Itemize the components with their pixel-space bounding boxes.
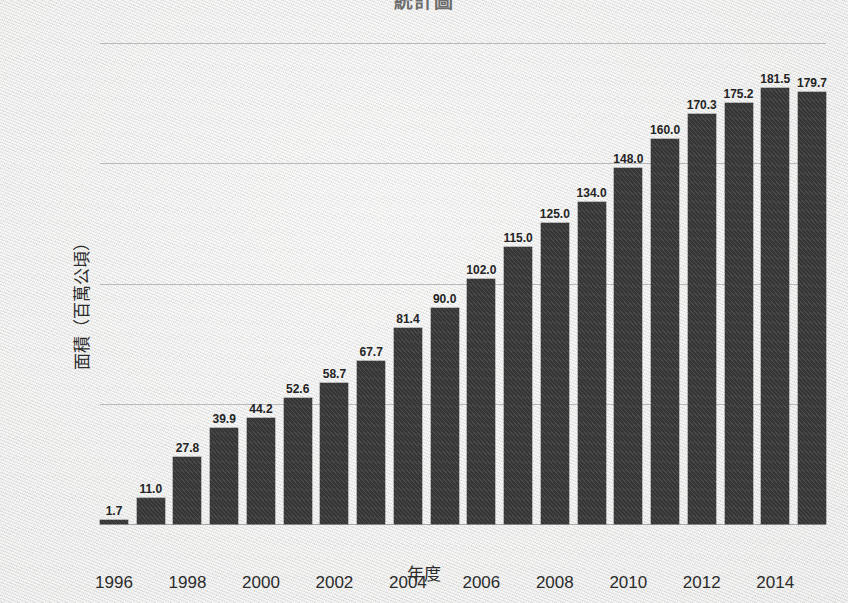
gridline-150 <box>100 163 826 164</box>
chart-figure: 統計圖 面積（百萬公頃） 年度 050100150200 1.711.027.8… <box>0 0 848 603</box>
bar-value-label: 102.0 <box>466 264 496 276</box>
x-axis-tick-label: 2002 <box>315 573 353 593</box>
bar-value-label: 11.0 <box>139 483 162 495</box>
bar[interactable] <box>247 418 275 524</box>
gridline-100 <box>100 284 826 285</box>
bar[interactable] <box>100 520 128 524</box>
bar-slot[interactable]: 67.7 <box>357 43 385 524</box>
gridline-0 <box>100 524 826 525</box>
bar-slot[interactable]: 179.7 <box>798 43 826 524</box>
bar-slot[interactable]: 181.5 <box>761 43 789 524</box>
bar[interactable] <box>320 383 348 524</box>
bar-value-label: 134.0 <box>577 187 607 199</box>
x-axis-tick-label: 2004 <box>389 573 427 593</box>
bar-slot[interactable]: 90.0 <box>431 43 459 524</box>
bar-slot[interactable]: 134.0 <box>578 43 606 524</box>
bar-value-label: 90.0 <box>433 293 456 305</box>
x-axis-tick-label: 2000 <box>242 573 280 593</box>
bar[interactable] <box>394 328 422 524</box>
bar-slot[interactable]: 170.3 <box>688 43 716 524</box>
x-axis-tick-label: 1998 <box>169 573 207 593</box>
x-axis-tick-label: 2008 <box>536 573 574 593</box>
bar-value-label: 39.9 <box>213 413 236 425</box>
bar-slot[interactable]: 27.8 <box>173 43 201 524</box>
bar-value-label: 58.7 <box>323 368 346 380</box>
bar[interactable] <box>688 114 716 524</box>
x-axis-tick-label: 2010 <box>609 573 647 593</box>
bar[interactable] <box>357 361 385 524</box>
bar-value-label: 125.0 <box>540 208 570 220</box>
bar-slot[interactable]: 115.0 <box>504 43 532 524</box>
bar-slot[interactable]: 39.9 <box>210 43 238 524</box>
bar-slot[interactable]: 11.0 <box>137 43 165 524</box>
x-axis-tick-label: 2014 <box>756 573 794 593</box>
plot-area: 050100150200 1.711.027.839.944.252.658.7… <box>100 43 826 524</box>
bar-value-label: 181.5 <box>760 73 790 85</box>
bar-value-label: 115.0 <box>503 232 532 244</box>
bar-slot[interactable]: 125.0 <box>541 43 569 524</box>
bar[interactable] <box>578 202 606 524</box>
bar-value-label: 160.0 <box>650 124 680 136</box>
bar-value-label: 67.7 <box>359 346 382 358</box>
bar-value-label: 52.6 <box>286 383 309 395</box>
bar-slot[interactable]: 102.0 <box>467 43 495 524</box>
x-axis-tick-label: 2012 <box>683 573 721 593</box>
bar-slot[interactable]: 148.0 <box>614 43 642 524</box>
bar[interactable] <box>651 139 679 524</box>
bar-value-label: 44.2 <box>249 403 272 415</box>
bar[interactable] <box>173 457 201 524</box>
bar[interactable] <box>210 428 238 524</box>
bar-slot[interactable]: 81.4 <box>394 43 422 524</box>
bar-value-label: 27.8 <box>176 442 199 454</box>
bar[interactable] <box>725 103 753 524</box>
bar-value-label: 175.2 <box>724 88 754 100</box>
bar-slot[interactable]: 1.7 <box>100 43 128 524</box>
bar[interactable] <box>284 398 312 525</box>
x-axis-tick-label: 1996 <box>95 573 133 593</box>
x-axis-tick-label: 2006 <box>462 573 500 593</box>
bar-value-label: 170.3 <box>687 99 717 111</box>
bar-slot[interactable]: 44.2 <box>247 43 275 524</box>
chart-title-text: 統計圖 <box>394 0 454 10</box>
bar-value-label: 1.7 <box>106 505 123 517</box>
bar[interactable] <box>431 308 459 524</box>
bar[interactable] <box>137 498 165 524</box>
bar[interactable] <box>761 88 789 525</box>
bar[interactable] <box>467 279 495 524</box>
bar-value-label: 81.4 <box>396 313 419 325</box>
bar-slot[interactable]: 58.7 <box>320 43 348 524</box>
bar-slot[interactable]: 52.6 <box>284 43 312 524</box>
bar-slot[interactable]: 175.2 <box>725 43 753 524</box>
bar[interactable] <box>504 247 532 524</box>
bar[interactable] <box>798 92 826 524</box>
gridline-50 <box>100 404 826 405</box>
bar-slot[interactable]: 160.0 <box>651 43 679 524</box>
bar[interactable] <box>541 223 569 524</box>
bar[interactable] <box>614 168 642 524</box>
chart-title-clipped: 統計圖 <box>0 0 848 10</box>
bar-value-label: 179.7 <box>797 77 827 89</box>
y-axis-title: 面積（百萬公頃） <box>68 234 93 370</box>
gridline-200 <box>100 43 826 44</box>
bar-value-label: 148.0 <box>613 153 643 165</box>
